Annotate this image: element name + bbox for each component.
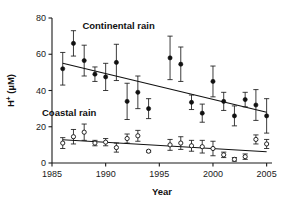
data-point [146,149,150,153]
data-point [211,146,215,150]
x-tick-label: 2000 [203,169,223,179]
data-point [200,145,204,149]
data-point [265,114,269,118]
data-point [61,67,65,71]
y-axis-title-text: H+ (µM) [5,74,16,107]
data-point [146,107,150,111]
data-point [232,157,236,161]
data-point [136,90,140,94]
data-point [243,155,247,159]
x-tick-label: 1990 [96,169,116,179]
data-point [125,136,129,140]
data-point [243,97,247,101]
data-point [168,143,172,147]
chart-figure: 02040608019851990199520002005YearH+ (µM)… [0,0,283,209]
data-point [104,75,108,79]
data-point [114,60,118,64]
data-point [179,141,183,145]
y-tick-label: 60 [36,49,46,59]
data-point [200,111,204,115]
x-axis-title: Year [152,186,172,197]
data-point [179,62,183,66]
data-point [93,141,97,145]
data-point [232,114,236,118]
series-annotation-continental-rain: Continental rain [82,20,155,31]
y-axis-title: H+ (µM) [5,74,16,107]
trend-line [63,63,267,112]
data-point [71,41,75,45]
x-tick-label: 1985 [42,169,62,179]
data-point [211,79,215,83]
x-tick-label: 2005 [257,169,277,179]
data-point [222,153,226,157]
data-point [265,142,269,146]
series-annotation-coastal-rain: Coastal rain [42,107,97,118]
y-tick-label: 40 [36,86,46,96]
data-point [61,141,65,145]
acidity-trend-scatter-chart: 02040608019851990199520002005YearH+ (µM)… [0,0,283,209]
data-point [93,72,97,76]
data-point [168,56,172,60]
y-tick-label: 0 [41,158,46,168]
data-point [82,58,86,62]
x-tick-label: 1995 [149,169,169,179]
data-point [104,140,108,144]
data-point [125,99,129,103]
data-point [71,135,75,139]
data-point [189,100,193,104]
series-coastal-rain [60,124,269,161]
data-point [136,134,140,138]
y-tick-label: 80 [36,13,46,23]
data-point [222,99,226,103]
data-point [114,145,118,149]
data-point [254,137,258,141]
y-tick-label: 20 [36,122,46,132]
data-point [189,144,193,148]
y-axis-title-unit: (µM) [5,74,16,96]
data-point [82,130,86,134]
data-point [254,103,258,107]
